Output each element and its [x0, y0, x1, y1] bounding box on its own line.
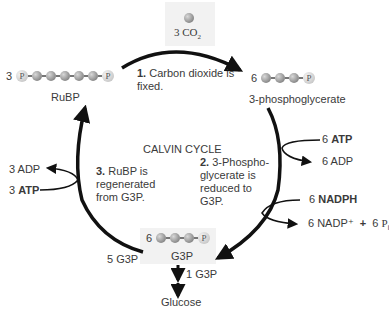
phosphate-icon: P — [198, 232, 210, 244]
atp-input-step3: 3 ATP — [9, 184, 39, 196]
phosphate-icon: P — [16, 70, 28, 82]
nadph-input: 6 NADPH — [309, 193, 357, 205]
nadp-output: 6 NADP⁺ + 6 Pi — [308, 217, 389, 231]
phosphate-icon: P — [102, 70, 114, 82]
atp-input-step2: 6 ATP — [322, 133, 352, 145]
recycled-g3p-label: 5 G3P — [107, 253, 138, 265]
rubp-label: RuBP — [51, 91, 80, 103]
g3p-label: G3P — [171, 250, 193, 262]
phosphate-icon: P — [303, 72, 315, 84]
cycle-title: CALVIN CYCLE — [143, 143, 222, 155]
step-1: 1. Carbon dioxide is fixed. — [137, 67, 247, 93]
g3p-molecule: 6 P — [146, 232, 210, 244]
glucose-label: Glucose — [161, 296, 201, 308]
pga-molecule: 6 P — [251, 72, 315, 84]
step-3: 3. RuBP is regenerated from G3P. — [96, 165, 156, 204]
adp-output-step3: 3 ADP — [9, 163, 40, 175]
rubp-molecule: 3 P P — [6, 70, 114, 82]
adp-output-step2: 6 ADP — [322, 155, 353, 167]
pga-label: 3-phosphoglycerate — [249, 93, 346, 105]
step-2: 2. 3-Phospho-glycerate is reduced to G3P… — [200, 156, 272, 208]
exported-g3p-label: 1 G3P — [186, 268, 217, 280]
